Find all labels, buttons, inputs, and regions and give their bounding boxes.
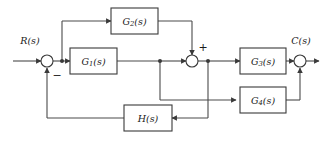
sum1-minus-sign: − [52,69,61,82]
branch-node-after-sum2 [206,59,210,63]
block-h-label: H(s) [137,112,159,123]
summing-junction-output[interactable] [294,55,306,67]
block-g4-label: G4(s) [251,94,276,107]
branch-node-after-g1 [158,59,162,63]
block-g3-label: G3(s) [251,55,276,68]
block-diagram-canvas: G2(s) G1(s) G3(s) G4(s) H(s) R(s) C(s) −… [0,0,324,145]
summing-junction-middle[interactable] [186,55,198,67]
summing-junction-input[interactable] [41,55,53,67]
block-diagram-svg: G2(s) G1(s) G3(s) G4(s) H(s) R(s) C(s) −… [0,0,324,145]
sum2-plus-sign: + [198,41,207,54]
block-g1-label: G1(s) [81,55,106,68]
input-signal-label: R(s) [19,35,40,46]
output-signal-label: C(s) [291,35,311,46]
block-g2-label: G2(s) [122,15,147,28]
branch-node-after-sum1 [60,59,64,63]
